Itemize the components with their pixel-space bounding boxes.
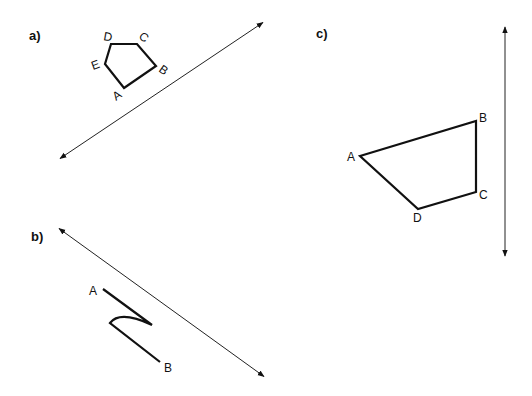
panel-c: c) A B C D <box>316 26 505 256</box>
mirror-line-b <box>59 229 264 377</box>
vertex-label-a-B: B <box>156 62 171 78</box>
panel-b: b) A B <box>31 229 264 377</box>
mirror-line-a <box>60 23 263 159</box>
vertex-label-b-B: B <box>164 361 172 375</box>
vertex-label-c-B: B <box>479 111 487 125</box>
vertex-label-a-D: D <box>102 29 113 44</box>
panel-a: a) A B C D E <box>29 23 263 159</box>
curved-path-ab <box>103 289 160 362</box>
vertex-label-a-E: E <box>89 57 101 73</box>
vertex-label-c-C: C <box>479 188 488 202</box>
panel-label-b: b) <box>31 229 43 244</box>
vertex-label-c-D: D <box>413 211 422 225</box>
vertex-label-a-C: C <box>136 29 151 46</box>
pentagon-abcde <box>105 44 156 88</box>
vertex-label-c-A: A <box>347 150 355 164</box>
vertex-label-a-A: A <box>110 87 125 103</box>
quadrilateral-abcd <box>360 121 476 209</box>
panel-label-c: c) <box>316 26 328 41</box>
panel-label-a: a) <box>29 28 41 43</box>
diagram-canvas: a) A B C D E b) A B c) A B C D <box>0 0 532 396</box>
vertex-label-b-A: A <box>89 284 97 298</box>
